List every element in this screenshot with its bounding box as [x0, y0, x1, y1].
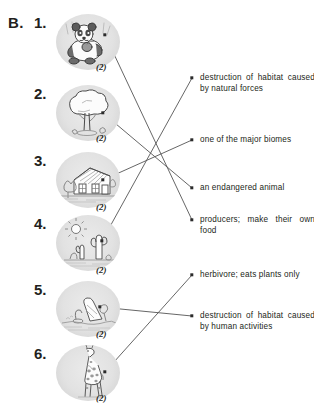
house-icon: [56, 152, 120, 208]
item-mark: (2): [96, 393, 107, 403]
panda-icon: [56, 14, 120, 70]
description-item: an endangered animal: [200, 182, 314, 193]
connector-dot-item-4[interactable]: [100, 239, 103, 242]
item-mark: (2): [96, 202, 107, 212]
description-item: destruction of habitat caused by natural…: [200, 72, 314, 95]
worksheet-matching-exercise: B. 1.: [0, 0, 314, 411]
item-number: 3.: [34, 152, 47, 169]
description-item: producers; make their own food: [200, 214, 314, 237]
connector-dot-item-5[interactable]: [98, 305, 101, 308]
connector-dot-desc-e[interactable]: [190, 273, 193, 276]
section-letter: B.: [8, 14, 24, 31]
connector-dot-desc-d[interactable]: [190, 218, 193, 221]
description-item: destruction of habitat caused by human a…: [200, 310, 314, 333]
connector-lines: [0, 0, 314, 411]
tree-icon: [56, 85, 120, 141]
item-number: 5.: [34, 281, 47, 298]
item-mark: (2): [96, 62, 107, 72]
item-mark: (2): [96, 329, 107, 339]
item-mark: (2): [96, 133, 107, 143]
description-item: one of the major biomes: [200, 134, 314, 145]
connector-dot-desc-c[interactable]: [190, 186, 193, 189]
item-number: 6.: [34, 345, 47, 362]
connector-dot-item-1[interactable]: [103, 33, 106, 36]
item-mark: (2): [96, 265, 107, 275]
connector-dot-desc-b[interactable]: [190, 138, 193, 141]
connector-dot-desc-f[interactable]: [190, 314, 193, 317]
connector-dot-desc-a[interactable]: [190, 76, 193, 79]
description-item: herbivore; eats plants only: [200, 269, 314, 280]
connector-1-d: [105, 35, 192, 220]
connector-dot-item-3[interactable]: [101, 178, 104, 181]
logging-icon: [56, 281, 120, 337]
connector-dot-item-2[interactable]: [101, 111, 104, 114]
connector-dot-item-6[interactable]: [103, 370, 106, 373]
connector-6-e: [105, 275, 192, 372]
item-number: 4.: [34, 215, 47, 232]
item-number: 2.: [34, 85, 47, 102]
desert-icon: [56, 215, 120, 271]
item-number: 1.: [34, 14, 47, 31]
giraffe-icon: [56, 345, 120, 401]
